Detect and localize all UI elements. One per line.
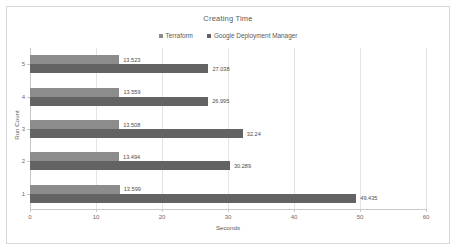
bar-row: 30.289 — [30, 161, 426, 170]
bar-terraform[interactable] — [30, 185, 120, 194]
y-tick-label: 5 — [22, 61, 25, 67]
bar-group: 113.59949.435 — [30, 185, 426, 203]
bar-row: 13.599 — [30, 185, 426, 194]
bar-google-deployment-manager[interactable] — [30, 97, 208, 106]
bar-value-label: 30.289 — [234, 163, 251, 169]
bar-group: 513.52327.038 — [30, 55, 426, 73]
bar-value-label: 13.523 — [123, 57, 140, 63]
x-tick-mark — [360, 209, 361, 212]
x-tick-mark — [228, 209, 229, 212]
bar-row: 32.24 — [30, 129, 426, 138]
bar-google-deployment-manager[interactable] — [30, 64, 208, 73]
bar-value-label: 13.494 — [123, 154, 140, 160]
x-tick-mark — [426, 209, 427, 212]
x-tick-label: 50 — [357, 214, 364, 220]
bar-value-label: 27.038 — [212, 66, 229, 72]
y-axis-title: Run Count — [13, 110, 20, 140]
chart-legend: TerraformGoogle Deployment Manager — [0, 32, 456, 39]
bar-terraform[interactable] — [30, 88, 119, 97]
bar-row: 26.995 — [30, 97, 426, 106]
x-axis-ticks: 0102030405060 — [30, 212, 426, 224]
bar-row: 13.508 — [30, 120, 426, 129]
x-tick-mark — [294, 209, 295, 212]
x-tick-label: 20 — [159, 214, 166, 220]
bar-row: 49.435 — [30, 194, 426, 203]
bar-google-deployment-manager[interactable] — [30, 129, 243, 138]
bar-row: 13.523 — [30, 55, 426, 64]
bar-value-label: 32.24 — [247, 131, 261, 137]
y-tick-label: 3 — [22, 126, 25, 132]
y-tick-label: 1 — [22, 191, 25, 197]
bar-terraform[interactable] — [30, 120, 119, 129]
bar-groups: 113.59949.435213.49430.289313.50832.2441… — [30, 48, 426, 210]
y-tick-label: 2 — [22, 158, 25, 164]
bar-group: 313.50832.24 — [30, 120, 426, 138]
legend-swatch-icon — [159, 34, 163, 38]
x-axis-title: Seconds — [30, 224, 426, 231]
x-tick-label: 60 — [423, 214, 430, 220]
bar-row: 13.559 — [30, 88, 426, 97]
legend-label: Terraform — [166, 32, 193, 39]
bar-row: 27.038 — [30, 64, 426, 73]
bar-value-label: 49.435 — [360, 195, 377, 201]
x-tick-label: 30 — [225, 214, 232, 220]
bar-group: 413.55926.995 — [30, 88, 426, 106]
bar-group: 213.49430.289 — [30, 152, 426, 170]
bar-value-label: 26.995 — [212, 98, 229, 104]
y-tick-label: 4 — [22, 94, 25, 100]
x-tick-mark — [162, 209, 163, 212]
bar-value-label: 13.559 — [123, 89, 140, 95]
chart-container: Creating Time TerraformGoogle Deployment… — [0, 0, 456, 250]
x-tick-label: 40 — [291, 214, 298, 220]
legend-item-0[interactable]: Terraform — [159, 32, 193, 39]
bar-terraform[interactable] — [30, 152, 119, 161]
bar-value-label: 13.508 — [123, 122, 140, 128]
bar-terraform[interactable] — [30, 55, 119, 64]
legend-item-1[interactable]: Google Deployment Manager — [207, 32, 297, 39]
x-tick-label: 0 — [28, 214, 31, 220]
bar-google-deployment-manager[interactable] — [30, 161, 230, 170]
gridline — [426, 48, 427, 210]
plot-area: 113.59949.435213.49430.289313.50832.2441… — [30, 48, 426, 210]
bar-google-deployment-manager[interactable] — [30, 194, 356, 203]
legend-label: Google Deployment Manager — [214, 32, 297, 39]
x-tick-label: 10 — [93, 214, 100, 220]
legend-swatch-icon — [207, 34, 211, 38]
x-tick-mark — [30, 209, 31, 212]
bar-value-label: 13.599 — [124, 186, 141, 192]
chart-title: Creating Time — [0, 14, 456, 23]
x-tick-mark — [96, 209, 97, 212]
bar-row: 13.494 — [30, 152, 426, 161]
